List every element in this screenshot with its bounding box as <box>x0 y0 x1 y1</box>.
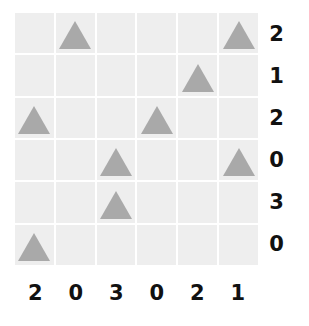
grid-cell[interactable] <box>137 140 176 180</box>
grid-cell[interactable] <box>97 182 136 222</box>
triangle-icon <box>100 148 132 176</box>
grid-cell[interactable] <box>178 140 217 180</box>
triangle-icon <box>141 106 173 134</box>
row-count-label: 2 <box>269 108 284 129</box>
grid-cell[interactable] <box>178 98 217 138</box>
grid-cell[interactable] <box>97 140 136 180</box>
triangle-icon <box>18 106 50 134</box>
grid-cell[interactable] <box>137 182 176 222</box>
grid-cell[interactable] <box>219 182 258 222</box>
grid-cell[interactable] <box>15 55 54 95</box>
grid-cell[interactable] <box>15 13 54 53</box>
triangle-icon <box>182 64 214 92</box>
triangle-icon <box>223 148 255 176</box>
grid-cell[interactable] <box>56 13 95 53</box>
grid-cell[interactable] <box>56 55 95 95</box>
column-label-row: 203021 <box>15 278 258 308</box>
grid-cell[interactable] <box>219 13 258 53</box>
grid-cell[interactable] <box>137 13 176 53</box>
grid-cell[interactable] <box>15 182 54 222</box>
grid-cell[interactable] <box>219 225 258 265</box>
triangle-icon <box>100 191 132 219</box>
row-count-label: 0 <box>269 234 284 255</box>
puzzle-grid[interactable] <box>15 13 258 265</box>
grid-cell[interactable] <box>178 55 217 95</box>
column-count-label: 0 <box>149 283 164 304</box>
row-count-label: 0 <box>269 150 284 171</box>
board-area: 212030 <box>15 13 295 265</box>
grid-cell[interactable] <box>97 55 136 95</box>
grid-cell[interactable] <box>97 225 136 265</box>
grid-cell[interactable] <box>56 140 95 180</box>
grid-cell[interactable] <box>56 225 95 265</box>
grid-cell[interactable] <box>137 225 176 265</box>
row-label-column: 212030 <box>258 13 295 265</box>
column-count-label: 3 <box>109 283 124 304</box>
grid-cell[interactable] <box>97 13 136 53</box>
grid-cell[interactable] <box>15 98 54 138</box>
column-count-label: 2 <box>28 283 43 304</box>
grid-cell[interactable] <box>15 140 54 180</box>
grid-cell[interactable] <box>178 182 217 222</box>
column-count-label: 0 <box>68 283 83 304</box>
grid-cell[interactable] <box>137 98 176 138</box>
row-count-label: 2 <box>269 24 284 45</box>
grid-cell[interactable] <box>219 98 258 138</box>
triangle-icon <box>223 21 255 49</box>
column-count-label: 1 <box>230 283 245 304</box>
triangle-icon <box>59 21 91 49</box>
grid-cell[interactable] <box>97 98 136 138</box>
grid-cell[interactable] <box>137 55 176 95</box>
grid-cell[interactable] <box>178 13 217 53</box>
grid-cell[interactable] <box>178 225 217 265</box>
grid-cell[interactable] <box>56 182 95 222</box>
grid-cell[interactable] <box>219 140 258 180</box>
column-count-label: 2 <box>190 283 205 304</box>
row-count-label: 1 <box>269 66 284 87</box>
grid-cell[interactable] <box>56 98 95 138</box>
triangle-icon <box>18 233 50 261</box>
triangle-grid-puzzle: 212030 203021 <box>0 0 309 326</box>
grid-cell[interactable] <box>15 225 54 265</box>
grid-cell[interactable] <box>219 55 258 95</box>
row-count-label: 3 <box>269 192 284 213</box>
